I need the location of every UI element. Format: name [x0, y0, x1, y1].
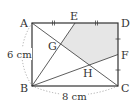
label-d: D [121, 17, 130, 30]
label-f: F [121, 49, 129, 62]
shaded-region [61, 23, 118, 65]
segment-be [32, 23, 75, 86]
dimension-bc: 8 cm [62, 91, 87, 102]
dimension-ab: 6 cm [7, 49, 32, 60]
label-e: E [70, 10, 78, 23]
label-a: A [19, 17, 29, 30]
geometry-figure: A E D G F H B C 6 cm 8 cm [0, 0, 137, 106]
label-h: H [83, 67, 93, 80]
label-c: C [121, 82, 129, 95]
label-b: B [20, 82, 28, 95]
label-g: G [48, 40, 57, 53]
segment-bf [32, 55, 118, 87]
